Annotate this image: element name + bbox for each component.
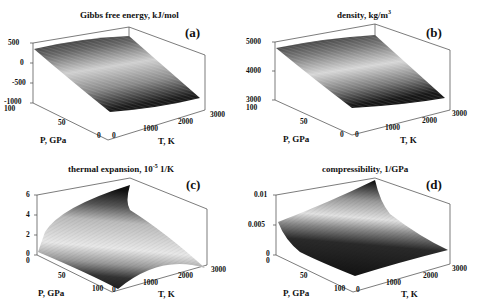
chart-title: thermal expansion, 10-5 1/K [68,164,174,174]
x-tick: 50 [300,271,308,280]
x-axis-label: P, GPa [283,134,309,144]
y-tick: 0 [112,131,116,140]
surface-plot-c [0,152,239,305]
z-tick: 2 [26,230,30,239]
y-tick: 1000 [386,278,401,287]
y-tick: 1000 [143,278,158,287]
z-tick: 4 [26,210,30,219]
x-axis-label: P, GPa [40,135,66,145]
y-axis-label: T, K [400,135,417,145]
chart-title: density, kg/m3 [337,10,391,20]
y-tick: 2000 [423,271,438,280]
panel-label: (c) [186,177,200,193]
x-tick: 0 [97,131,101,140]
x-tick: 0 [266,256,270,265]
panel-density: density, kg/m3 (b) 5000 4000 3000 100 50… [240,0,478,152]
panel-thermal-expansion: thermal expansion, 10-5 1/K (c) 6 4 2 0 … [0,152,239,304]
chart-title: compressibility, 1/GPa [322,164,408,174]
z-tick: 5000 [246,37,261,46]
y-axis-label: T, K [158,136,175,146]
y-tick: 1000 [385,123,400,132]
panel-label: (d) [426,177,442,193]
x-tick: 0 [340,130,344,139]
panel-gibbs-free-energy: Gibbs free energy, kJ/mol (a) 500 0 -500… [0,0,239,152]
y-tick: 3000 [452,109,467,118]
surface-plot-b [240,0,478,152]
y-axis-label: T, K [401,289,418,299]
y-tick: 3000 [210,110,225,119]
z-tick: 500 [8,38,19,47]
panel-compressibility: compressibility, 1/GPa (d) 0.01 0.005 0 … [240,152,478,304]
x-tick: 50 [58,118,66,127]
y-tick: 0 [356,285,360,294]
z-tick: 0.005 [248,220,265,229]
x-tick: 50 [58,271,66,280]
z-tick: -500 [12,78,26,87]
y-tick: 2000 [422,116,437,125]
y-tick: 2000 [178,271,193,280]
y-tick: 2000 [178,117,193,126]
z-tick: 0 [20,58,24,67]
y-tick: 0 [112,285,116,294]
x-axis-label: P, GPa [283,288,309,298]
x-tick: 100 [246,103,257,112]
x-axis-label: P, GPa [38,288,64,298]
z-tick: 6 [26,190,30,199]
x-tick: 100 [92,284,103,293]
panel-label: (b) [426,25,442,41]
x-tick: 100 [4,104,15,113]
y-tick: 3000 [211,265,226,274]
y-tick: 3000 [452,264,467,273]
y-axis-label: T, K [158,289,175,299]
z-tick: 4000 [246,66,261,75]
x-tick: 0 [26,256,30,265]
chart-title: Gibbs free energy, kJ/mol [80,10,179,20]
z-tick: 0.01 [254,190,267,199]
x-tick: 100 [334,284,345,293]
surface-plot-a [0,0,239,152]
y-tick: 1000 [143,124,158,133]
x-tick: 50 [300,117,308,126]
panel-label: (a) [185,25,200,41]
y-tick: 0 [355,130,359,139]
surface-plot-d [240,152,478,305]
